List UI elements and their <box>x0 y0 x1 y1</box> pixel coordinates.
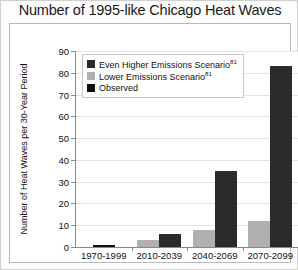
y-axis-tick <box>71 95 76 96</box>
legend-item-higher: Even Higher Emissions Scenario81 <box>87 58 237 70</box>
y-axis-tick <box>71 138 76 139</box>
y-axis-tick-label: 50 <box>58 133 69 144</box>
bar-observed-1970-1999 <box>93 245 115 247</box>
bar-lower-2010-2039 <box>137 240 159 247</box>
x-axis-tick <box>243 247 244 251</box>
y-axis-tick-label: 60 <box>58 111 69 122</box>
y-axis-tick-label: 30 <box>58 176 69 187</box>
legend-swatch-higher-emissions <box>87 60 95 68</box>
y-axis-tick <box>71 51 76 52</box>
y-axis-title: Number of Heat Waves per 30-Year Period <box>19 64 29 235</box>
gridline <box>76 182 298 183</box>
chart-legend: Even Higher Emissions Scenario81 Lower E… <box>82 54 244 98</box>
y-axis-tick <box>71 182 76 183</box>
x-axis-tick-label: 2070-2099 <box>248 250 293 261</box>
x-axis-tick <box>187 247 188 251</box>
y-axis-tick-label: 0 <box>64 242 69 253</box>
legend-item-observed: Observed <box>87 82 237 94</box>
x-axis-tick-label: 2040-2069 <box>192 250 237 261</box>
bar-lower-2040-2069 <box>193 230 215 247</box>
legend-item-lower: Lower Emissions Scenario81 <box>87 70 237 82</box>
chart-figure: Number of 1995-like Chicago Heat Waves N… <box>0 0 298 270</box>
y-axis-tick <box>71 203 76 204</box>
gridline <box>76 51 298 52</box>
bar-higher-2010-2039 <box>159 234 181 247</box>
plot-card: Number of Heat Waves per 30-Year Period … <box>9 23 291 263</box>
gridline <box>76 116 298 117</box>
y-axis-tick <box>71 160 76 161</box>
legend-label-higher-emissions: Even Higher Emissions Scenario81 <box>99 59 237 70</box>
bar-higher-2070-2099 <box>270 66 292 247</box>
legend-swatch-observed <box>87 84 95 92</box>
y-axis-tick <box>71 247 76 248</box>
x-axis-tick <box>132 247 133 251</box>
y-axis-tick <box>71 116 76 117</box>
y-axis-tick-label: 10 <box>58 220 69 231</box>
bar-lower-2070-2099 <box>248 221 270 247</box>
x-axis-tick-label: 1970-1999 <box>81 250 126 261</box>
y-axis-tick-label: 90 <box>58 46 69 57</box>
legend-label-observed: Observed <box>99 83 138 93</box>
y-axis-tick-label: 20 <box>58 198 69 209</box>
y-axis-tick <box>71 225 76 226</box>
legend-label-lower-emissions: Lower Emissions Scenario81 <box>99 71 212 82</box>
y-axis-tick-label: 40 <box>58 154 69 165</box>
chart-title: Number of 1995-like Chicago Heat Waves <box>1 2 298 18</box>
legend-swatch-lower-emissions <box>87 72 95 80</box>
gridline <box>76 203 298 204</box>
bar-higher-2040-2069 <box>215 171 237 247</box>
y-axis-tick-label: 70 <box>58 89 69 100</box>
y-axis-tick-label: 80 <box>58 67 69 78</box>
y-axis-tick <box>71 73 76 74</box>
gridline <box>76 160 298 161</box>
x-axis-tick-label: 2010-2039 <box>137 250 182 261</box>
gridline <box>76 138 298 139</box>
